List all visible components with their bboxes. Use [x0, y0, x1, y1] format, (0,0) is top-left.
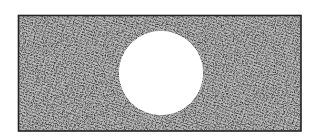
hole	[119, 31, 203, 115]
plate-with-hole-figure	[0, 0, 318, 140]
